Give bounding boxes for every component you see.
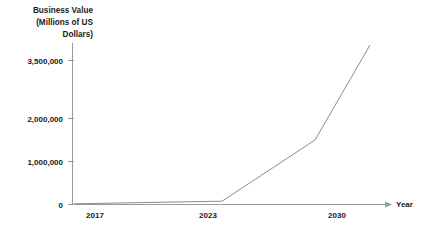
x-axis-name: Year	[396, 200, 413, 209]
x-tick-label-2017: 2017	[86, 211, 104, 220]
y-tick-label-2000000: 2,000,000	[27, 115, 63, 124]
y-axis-title-line-1: Business Value	[33, 6, 94, 15]
chart-screenshot: Business Value (Millions of US Dollars) …	[0, 0, 428, 237]
business-value-line-chart: Business Value (Millions of US Dollars) …	[0, 0, 428, 237]
y-tick-label-3500000: 3,500,000	[27, 57, 63, 66]
y-axis-title-line-3: Dollars)	[63, 30, 94, 39]
x-axis-arrow-icon	[385, 202, 392, 208]
business-value-series-line	[74, 45, 370, 204]
y-axis-title-line-2: (Millions of US	[36, 18, 93, 27]
x-tick-label-2030: 2030	[328, 211, 346, 220]
x-tick-label-2023: 2023	[199, 211, 217, 220]
y-tick-label-0: 0	[59, 201, 64, 210]
y-tick-label-1000000: 1,000,000	[27, 158, 63, 167]
